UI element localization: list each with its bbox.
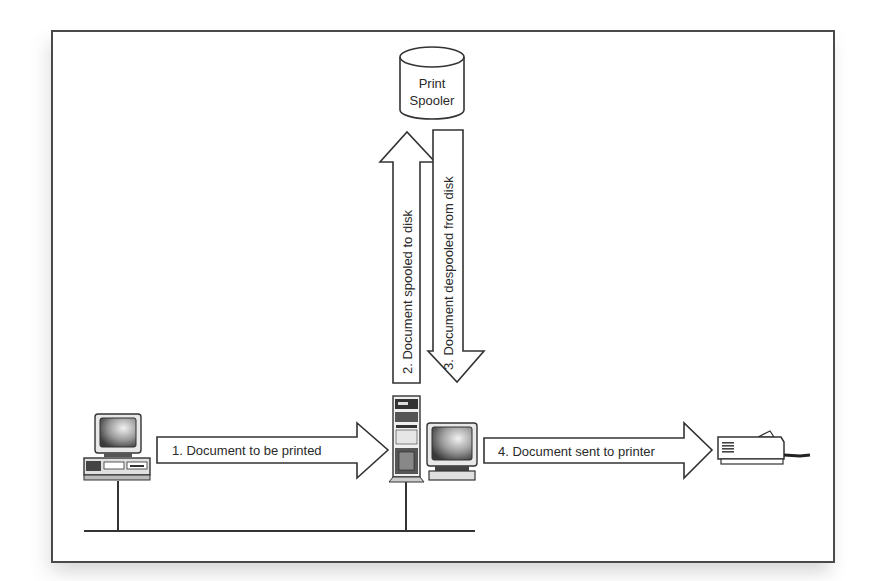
monitor-icon — [427, 423, 477, 480]
arrow-2-label: 2. Document spooled to disk — [400, 209, 415, 374]
arrow-despooled-from-disk: 3. Document despooled from disk — [428, 130, 484, 382]
arrow-document-sent-to-printer: 4. Document sent to printer — [484, 423, 712, 478]
arrow-spooled-to-disk: 2. Document spooled to disk — [380, 132, 435, 383]
print-spooler-diagram: Print Spooler 2. Document spooled to dis… — [0, 0, 869, 581]
arrow-1-label: 1. Document to be printed — [172, 443, 322, 458]
client-computer-node — [84, 414, 150, 480]
server-node — [389, 396, 477, 482]
print-spooler-node: Print Spooler — [400, 47, 464, 119]
arrow-down-icon — [428, 130, 484, 382]
arrow-4-label: 4. Document sent to printer — [498, 444, 655, 459]
spooler-label-line1: Print — [419, 76, 446, 91]
printer-node — [718, 431, 810, 464]
arrow-document-to-be-printed: 1. Document to be printed — [157, 423, 388, 478]
tower-server-icon — [389, 396, 424, 482]
network-bus — [84, 481, 475, 531]
arrow-3-label: 3. Document despooled from disk — [441, 176, 456, 370]
printer-icon — [718, 431, 810, 464]
spooler-label-line2: Spooler — [410, 93, 455, 108]
desktop-computer-icon — [84, 414, 150, 480]
